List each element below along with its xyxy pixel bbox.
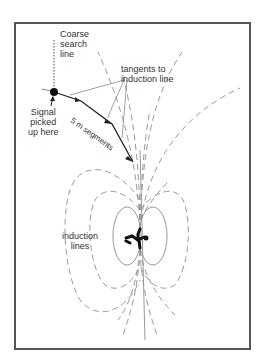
induction-lines [65, 52, 240, 338]
coarse-search-label: Coarse search line [60, 29, 89, 59]
signal-label: Signal picked up here [28, 107, 59, 137]
field-diagram [0, 0, 264, 354]
tangents-label: tangents to induction line [121, 64, 174, 84]
induction-label: induction lines [62, 231, 98, 251]
search-path [54, 92, 133, 162]
signal-dot [50, 88, 58, 96]
